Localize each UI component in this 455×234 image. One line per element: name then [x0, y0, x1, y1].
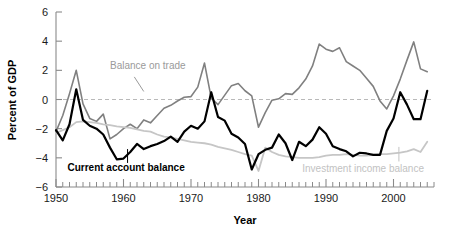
y-axis-tick-label: 2	[42, 64, 48, 76]
leader-line-balance-on-trade	[134, 77, 143, 92]
percent-of-gdp-line-chart: −6−4−20246195019601970198019902000Percen…	[0, 0, 455, 234]
x-axis-tick-label: 1970	[179, 192, 203, 204]
current-account-balance-label: Current account balance	[67, 162, 185, 173]
series-line-current-account-balance	[56, 89, 427, 169]
x-axis-tick-label: 2000	[381, 192, 405, 204]
series-line-balance-on-trade	[56, 42, 427, 139]
balance-on-trade-label: Balance on trade	[110, 60, 186, 71]
x-axis-tick-label: 1950	[44, 192, 68, 204]
y-axis-tick-label: −4	[35, 152, 48, 164]
y-axis-tick-label: 6	[42, 6, 48, 18]
chart-container: −6−4−20246195019601970198019902000Percen…	[0, 0, 455, 234]
x-axis-tick-label: 1980	[246, 192, 270, 204]
y-axis-title: Percent of GDP	[6, 60, 18, 141]
y-axis-tick-label: 0	[42, 94, 48, 106]
x-axis-tick-label: 1990	[314, 192, 338, 204]
x-axis-title: Year	[233, 214, 257, 226]
y-axis-tick-label: −2	[35, 123, 48, 135]
y-axis-tick-label: 4	[42, 35, 48, 47]
investment-income-balance-label: Investment income balance	[302, 163, 424, 174]
x-axis-tick-label: 1960	[111, 192, 135, 204]
